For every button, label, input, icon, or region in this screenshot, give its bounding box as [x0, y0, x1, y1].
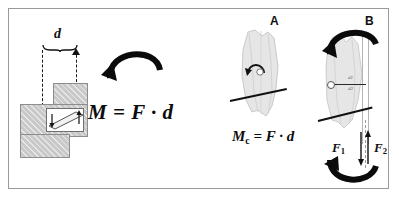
formula-Mc-equals: = — [253, 128, 262, 144]
formula-Mc-dot: · — [279, 128, 283, 144]
center-of-resistance-rotation-icon — [243, 58, 269, 78]
tooth-b-bottom-rotation-arrow-icon — [322, 152, 384, 186]
formula-M-distance: d — [163, 100, 174, 124]
formula-M-moment: M — [88, 100, 107, 124]
dimension-line-left — [42, 50, 43, 106]
distance-label-d: d — [54, 26, 61, 42]
formula-M-equals: = — [113, 100, 125, 124]
tooth-b-top-rotation-arrow-icon — [320, 24, 382, 60]
center-of-resistance-marker — [327, 81, 335, 89]
formula-M-dot: · — [151, 100, 157, 124]
d1-subscript: 1 — [351, 75, 354, 80]
formula-Mc-subscript: c — [245, 135, 249, 146]
figure-container: d M = F · d — [0, 0, 399, 199]
tooth-b-dimension-line — [330, 84, 366, 85]
bracket-body-lower — [20, 134, 70, 158]
d2-subscript: 2 — [351, 86, 354, 91]
formula-Mc-force: F — [266, 128, 276, 144]
moment-formula: M = F · d — [88, 100, 174, 125]
tooth-a-formula: Mc = F · d — [232, 128, 294, 146]
force-arrow-up-icon — [72, 48, 80, 55]
bracket-moment-diagram: d — [14, 14, 124, 174]
moment-rotation-arrow-icon — [98, 40, 168, 82]
distance-d1-label: d1 — [348, 75, 353, 80]
distance-d2-label: d2 — [348, 86, 353, 91]
archwire-icon — [46, 106, 86, 134]
formula-Mc-moment: M — [232, 128, 245, 144]
formula-M-force: F — [131, 100, 145, 124]
formula-Mc-distance: d — [287, 128, 295, 144]
tooth-diagram-a — [228, 26, 308, 126]
